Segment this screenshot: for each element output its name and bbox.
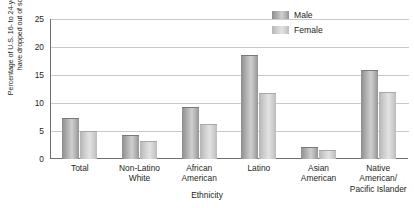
bar-group bbox=[169, 19, 229, 159]
bar-group bbox=[229, 19, 289, 159]
y-tick-label: 5 bbox=[22, 127, 44, 135]
x-tick-label: Asian American bbox=[289, 163, 349, 191]
bar-female bbox=[200, 124, 217, 159]
legend-label-male: Male bbox=[294, 11, 313, 20]
y-tick-label: 10 bbox=[22, 99, 44, 107]
legend-swatch-male-icon bbox=[272, 11, 289, 19]
bar-group bbox=[110, 19, 170, 159]
bar-group bbox=[289, 19, 349, 159]
legend-item-male: Male bbox=[272, 11, 323, 20]
bar-group bbox=[348, 19, 408, 159]
legend-label-female: Female bbox=[294, 26, 323, 35]
bar-group bbox=[50, 19, 110, 159]
bar-male bbox=[62, 118, 79, 159]
bar-female bbox=[140, 141, 157, 159]
y-tick-label: 25 bbox=[22, 15, 44, 23]
bar-groups bbox=[50, 19, 408, 159]
bar-female bbox=[379, 92, 396, 159]
bar-male bbox=[301, 147, 318, 159]
chart-legend: Male Female bbox=[272, 11, 323, 34]
bar-chart: Percentage of U.S. 16- to 24-year-olds w… bbox=[0, 0, 414, 208]
bar-female bbox=[319, 150, 336, 159]
x-axis-title: Ethnicity bbox=[0, 191, 414, 200]
x-tick-label: Latino bbox=[229, 163, 289, 191]
bar-male bbox=[361, 70, 378, 159]
x-axis-tick-labels: TotalNon-Latino WhiteAfrican AmericanLat… bbox=[50, 163, 408, 191]
legend-swatch-female-icon bbox=[272, 26, 289, 34]
bar-female bbox=[80, 131, 97, 159]
y-tick-label: 15 bbox=[22, 71, 44, 79]
legend-item-female: Female bbox=[272, 26, 323, 35]
x-tick-label: Total bbox=[50, 163, 110, 191]
y-tick-label: 0 bbox=[22, 155, 44, 163]
bar-male bbox=[122, 135, 139, 159]
bar-female bbox=[259, 93, 276, 159]
bar-male bbox=[182, 107, 199, 159]
x-tick-label: African American bbox=[169, 163, 229, 191]
x-tick-label: Non-Latino White bbox=[110, 163, 170, 191]
y-tick-label: 20 bbox=[22, 43, 44, 51]
bar-male bbox=[241, 55, 258, 159]
x-tick-label: Native American/ Pacific Islander bbox=[348, 163, 408, 191]
